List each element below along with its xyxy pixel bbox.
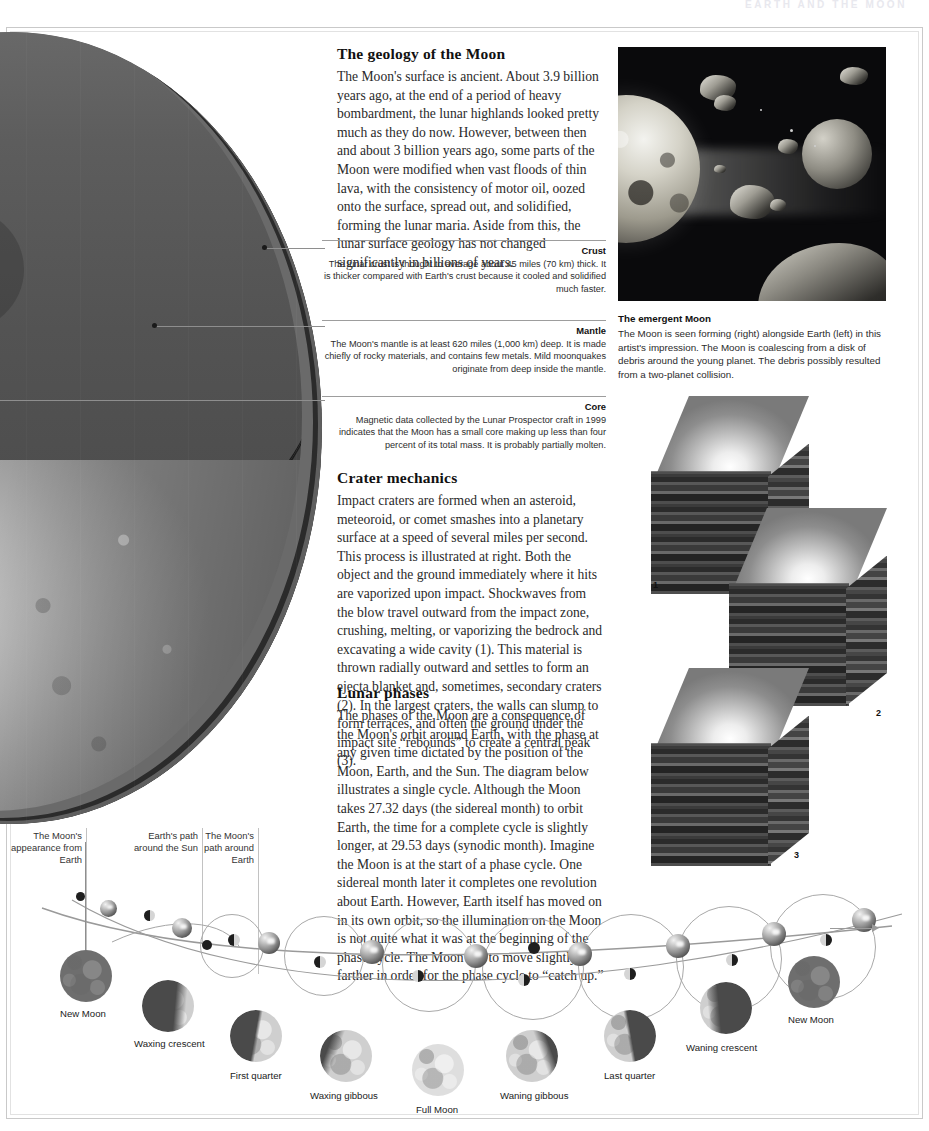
moon-shadow: [320, 1030, 372, 1082]
earth-position: [258, 932, 280, 954]
crater-step-number-2: 2: [876, 708, 881, 718]
moon-position: [144, 910, 155, 921]
crater-title: Crater mechanics: [337, 469, 605, 487]
leader-line-mantle: [155, 326, 325, 327]
callout-crust: Crust The lunar crust is thought to aver…: [322, 240, 606, 295]
earth-position: [568, 942, 592, 966]
orbit-direction-arrow-icon: [872, 924, 879, 932]
debris-rock: [714, 95, 736, 111]
callout-crust-body: The lunar crust is thought to average ab…: [322, 258, 606, 295]
leader-line-core: [0, 400, 325, 401]
geology-section: The geology of the Moon The Moon's surfa…: [337, 45, 605, 273]
callout-core: Core Magnetic data collected by the Luna…: [322, 396, 606, 451]
moon-shadow: [506, 1030, 558, 1082]
moon-position: [820, 934, 832, 946]
moon-orbit-ring: [382, 918, 476, 1012]
phase-moon-waxing-gibbous: [320, 1030, 372, 1082]
phase-label-full-moon: Full Moon: [416, 1104, 458, 1115]
callout-mantle: Mantle The Moon's mantle is at least 620…: [322, 320, 606, 375]
running-head: EARTH AND THE MOON: [745, 0, 907, 10]
debris-speck: [814, 145, 816, 147]
moon-shadow: [230, 1010, 282, 1062]
phase-label-waning-crescent: Waning crescent: [686, 1042, 757, 1053]
moon-position: [518, 974, 530, 986]
moon-position: [228, 934, 240, 946]
phase-moon-waning-crescent: [700, 982, 752, 1034]
moon-texture: [412, 1044, 464, 1096]
emergent-caption-title: The emergent Moon: [618, 313, 888, 324]
moon-position: [412, 970, 424, 982]
callout-mantle-title: Mantle: [322, 325, 606, 336]
leader-line-crust: [265, 248, 325, 249]
moon-orbit-ring: [284, 916, 364, 996]
emergent-moon-photo: [618, 47, 886, 301]
callout-core-title: Core: [322, 401, 606, 412]
phase-label-waning-gibbous: Waning gibbous: [500, 1090, 568, 1101]
moon-position: [76, 892, 85, 901]
moon-cutaway-illustration: [0, 32, 322, 824]
phase-moon-last-quarter: [604, 1010, 656, 1062]
moon-node-marker: [528, 942, 540, 954]
emergent-moon-caption: The emergent Moon The Moon is seen formi…: [618, 313, 888, 381]
moon-node-marker: [202, 940, 212, 950]
moon-shadow: [604, 1010, 656, 1062]
earth-position: [464, 944, 488, 968]
emergent-caption-body: The Moon is seen forming (right) alongsi…: [618, 327, 888, 381]
moon-texture: [788, 956, 840, 1008]
moon-orbit-ring: [482, 918, 584, 1020]
debris-rock: [730, 185, 774, 219]
debris-rock: [714, 165, 726, 173]
earth-position: [172, 918, 192, 938]
moon-shadow: [700, 982, 752, 1034]
phase-label-new-moon-2: New Moon: [788, 1014, 834, 1025]
coalescing-moon: [802, 119, 872, 189]
phase-moon-waxing-crescent: [142, 980, 194, 1032]
phases-title: Lunar phases: [337, 684, 605, 702]
phase-moon-full: [412, 1044, 464, 1096]
phase-tick-line: [85, 842, 86, 964]
moon-scan-lines: [0, 32, 322, 824]
debris-rock: [840, 67, 868, 85]
phase-moon-new-2: [788, 956, 840, 1008]
phase-moon-first-quarter: [230, 1010, 282, 1062]
earth-position: [100, 900, 117, 917]
phase-moon-new-1: [60, 950, 112, 1002]
earth-position: [762, 922, 786, 946]
debris-speck: [790, 129, 793, 132]
young-earth: [618, 95, 700, 243]
debris-rock: [770, 199, 786, 211]
callout-mantle-body: The Moon's mantle is at least 620 miles …: [322, 338, 606, 375]
page-root: EARTH AND THE MOON The geology of the Mo…: [0, 0, 929, 1131]
callout-core-body: Magnetic data collected by the Lunar Pro…: [322, 414, 606, 451]
phase-moon-waning-gibbous: [506, 1030, 558, 1082]
moon-position: [624, 968, 636, 980]
phase-label-new-moon-1: New Moon: [60, 1008, 106, 1019]
phase-label-waxing-gibbous: Waxing gibbous: [310, 1090, 378, 1101]
foreground-asteroid: [758, 243, 886, 301]
lunar-phases-diagram: The Moon's appearance from Earth Earth's…: [12, 822, 917, 1118]
earth-position: [360, 940, 384, 964]
moon-position: [726, 954, 738, 966]
geology-title: The geology of the Moon: [337, 45, 605, 63]
debris-rock: [778, 139, 798, 154]
moon-shadow: [142, 980, 194, 1032]
phase-label-last-quarter: Last quarter: [604, 1070, 655, 1081]
leader-dot-crust: [262, 245, 267, 250]
orbit-direction-line: [830, 928, 874, 929]
earth-position: [666, 934, 690, 958]
callout-crust-title: Crust: [322, 245, 606, 256]
debris-speck: [760, 109, 762, 111]
leader-dot-mantle: [152, 323, 157, 328]
crater-step-number-1: 1: [653, 580, 658, 590]
phase-label-first-quarter: First quarter: [230, 1070, 282, 1081]
moon-orbit-ring: [578, 914, 684, 1020]
moon-texture: [60, 950, 112, 1002]
phase-label-waxing-crescent: Waxing crescent: [134, 1038, 205, 1049]
moon-position: [314, 956, 326, 968]
